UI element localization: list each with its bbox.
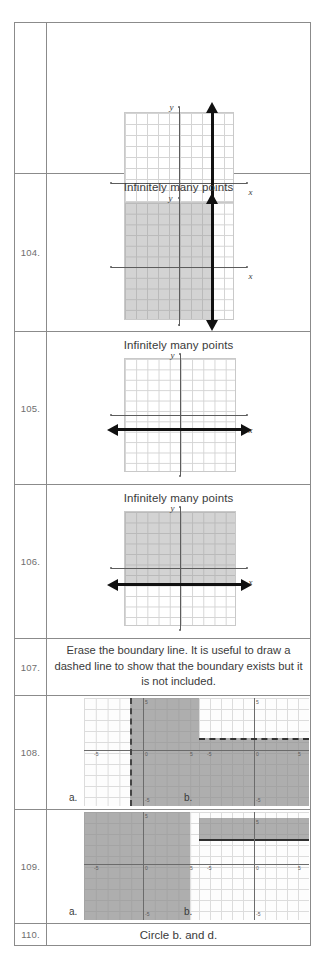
tick-label-center: 0 <box>256 866 259 871</box>
row-content-cell: 5 -5 0 5 -5 a. 5 -5 <box>47 810 311 924</box>
tick-label-bottom: -5 <box>256 912 260 917</box>
row-content-cell: Circle b. and d. <box>47 924 311 946</box>
tick-label-bottom: -5 <box>145 798 149 803</box>
mini-plot-108a: 5 -5 0 5 -5 <box>84 698 202 806</box>
row-content-cell: Erase the boundary line. It is useful to… <box>47 639 311 696</box>
tick-label-left: -5 <box>207 752 211 757</box>
row-content-cell: 5 -5 0 5 -5 a. 5 -5 <box>47 696 311 810</box>
instruction-text: Erase the boundary line. It is useful to… <box>47 640 310 694</box>
y-axis-label: y <box>170 102 174 112</box>
mini-plot-108b: 5 -5 0 5 -5 <box>199 698 309 806</box>
row-number-cell: 106. <box>15 485 47 639</box>
mini-plot-109b: 5 -5 0 5 -5 <box>199 812 309 920</box>
sublabel-b: b. <box>184 792 192 803</box>
sublabel-b: b. <box>184 906 192 917</box>
row-caption: Infinitely many points <box>47 489 310 505</box>
worksheet-page: y x 104. Infinitely many points <box>0 0 330 976</box>
y-axis <box>179 198 180 326</box>
x-axis <box>111 568 247 569</box>
y-axis <box>143 698 144 806</box>
row-number-cell <box>15 23 47 174</box>
row-content-cell: y x <box>47 23 311 174</box>
tick-label-top: 5 <box>256 700 259 705</box>
arrow-up-icon <box>206 102 218 113</box>
tick-label-center: 0 <box>256 752 259 757</box>
arrow-right-icon <box>241 424 252 436</box>
arrow-up-icon <box>206 193 218 204</box>
y-axis-label: y <box>171 350 175 360</box>
table-row: y x <box>15 23 311 174</box>
row-number-cell: 108. <box>15 696 47 810</box>
mini-plot-109a: 5 -5 0 5 -5 <box>84 812 202 920</box>
dashed-boundary <box>199 738 309 740</box>
arrow-left-icon <box>107 579 118 591</box>
table-row: 105. Infinitely many points y x <box>15 332 311 485</box>
arrow-left-icon <box>107 424 118 436</box>
shaded-region <box>84 812 190 920</box>
answer-key-table: y x 104. Infinitely many points <box>14 22 311 946</box>
tick-label-top: 5 <box>145 700 148 705</box>
tick-label-right: 5 <box>190 866 193 871</box>
y-axis-label: y <box>171 503 175 513</box>
y-axis <box>143 812 144 920</box>
y-axis <box>180 354 181 476</box>
row-content-cell: Infinitely many points y x <box>47 332 311 485</box>
table-row: 110. Circle b. and d. <box>15 924 311 946</box>
tick-label-center: 0 <box>145 752 148 757</box>
sublabel-a: a. <box>69 906 77 917</box>
tick-label-bottom: -5 <box>145 912 149 917</box>
table-row: 107. Erase the boundary line. It is usef… <box>15 639 311 696</box>
answer-text: Circle b. and d. <box>47 925 310 945</box>
tick-label-right: 5 <box>190 752 193 757</box>
dashed-boundary <box>130 698 132 806</box>
row-caption: Infinitely many points <box>47 336 310 352</box>
tick-label-bottom: -5 <box>256 798 260 803</box>
arrow-down-icon <box>206 320 218 331</box>
row-content-cell: Infinitely many points y x <box>47 485 311 639</box>
tick-label-left: -5 <box>94 866 98 871</box>
row-number-cell: 109. <box>15 810 47 924</box>
tick-label-left: -5 <box>94 752 98 757</box>
tick-label-left: -5 <box>207 866 211 871</box>
sublabel-a: a. <box>69 792 77 803</box>
x-axis <box>111 415 247 416</box>
row-number-cell: 107. <box>15 639 47 696</box>
y-axis-label: y <box>169 193 173 203</box>
y-axis <box>254 812 255 920</box>
graph-horizontal-line-unshaded: y x <box>47 352 310 480</box>
table-row: 104. Infinitely many points y x <box>15 174 311 332</box>
row-content-cell: Infinitely many points y x <box>47 174 311 332</box>
table-row: 108. 5 -5 0 5 -5 <box>15 696 311 810</box>
y-axis <box>180 507 181 630</box>
row-number-cell: 104. <box>15 174 47 332</box>
row-caption: Infinitely many points <box>47 178 310 194</box>
table-row: 109. 5 -5 0 5 -5 a. <box>15 810 311 924</box>
row-number-cell: 110. <box>15 924 47 946</box>
table-row: 106. Infinitely many points y x <box>15 485 311 639</box>
graph-vertical-line-shaded-left: y x <box>47 194 310 327</box>
tick-label-top: 5 <box>145 814 148 819</box>
row-number-cell: 105. <box>15 332 47 485</box>
solution-line <box>211 203 214 320</box>
solution-line <box>117 428 242 431</box>
tick-label-right: 5 <box>298 752 301 757</box>
x-axis-label: x <box>249 271 253 281</box>
arrow-right-icon <box>241 579 252 591</box>
graph-horizontal-line-shaded-above: y x <box>47 505 310 634</box>
tick-label-top: 5 <box>256 820 259 825</box>
tick-label-right: 5 <box>298 866 301 871</box>
tick-label-center: 0 <box>145 866 148 871</box>
solution-line <box>117 583 242 586</box>
y-axis <box>254 698 255 806</box>
